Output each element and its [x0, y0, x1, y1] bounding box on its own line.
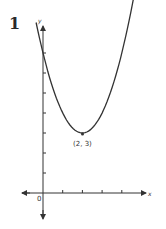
parabola-graph: (2, 3) 0 x y — [0, 0, 166, 229]
parabola-curve — [36, 0, 138, 133]
origin-label: 0 — [37, 195, 41, 203]
y-axis-label: y — [37, 17, 42, 25]
vertex-point — [81, 133, 84, 136]
x-axis-label: x — [147, 190, 152, 197]
vertex-label: (2, 3) — [73, 140, 92, 148]
